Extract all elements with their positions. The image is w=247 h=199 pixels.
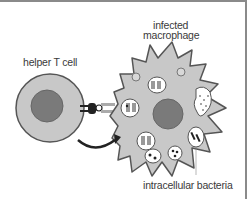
infected-macrophage	[110, 42, 226, 176]
tcr-mhc-receptor-icon	[80, 103, 115, 114]
bacteria-vesicle-icon	[168, 146, 182, 160]
intracellular-bacteria-label: intracellular bacteria	[143, 180, 233, 191]
macrophage-nucleus	[153, 99, 183, 129]
bacteria-vesicle-icon	[188, 127, 204, 147]
mhc-vesicle-icon	[121, 99, 139, 117]
curved-arrow-icon	[78, 134, 121, 148]
diagram-canvas	[0, 0, 247, 199]
helper-t-cell	[16, 74, 84, 142]
macrophage-label-line2: macrophage	[143, 30, 199, 41]
helper-t-cell-label: helper T cell	[23, 57, 77, 68]
mhc-vesicle-icon	[148, 77, 166, 93]
bacteria-vesicle-icon	[145, 149, 161, 163]
mhc-vesicle-icon	[137, 132, 155, 150]
